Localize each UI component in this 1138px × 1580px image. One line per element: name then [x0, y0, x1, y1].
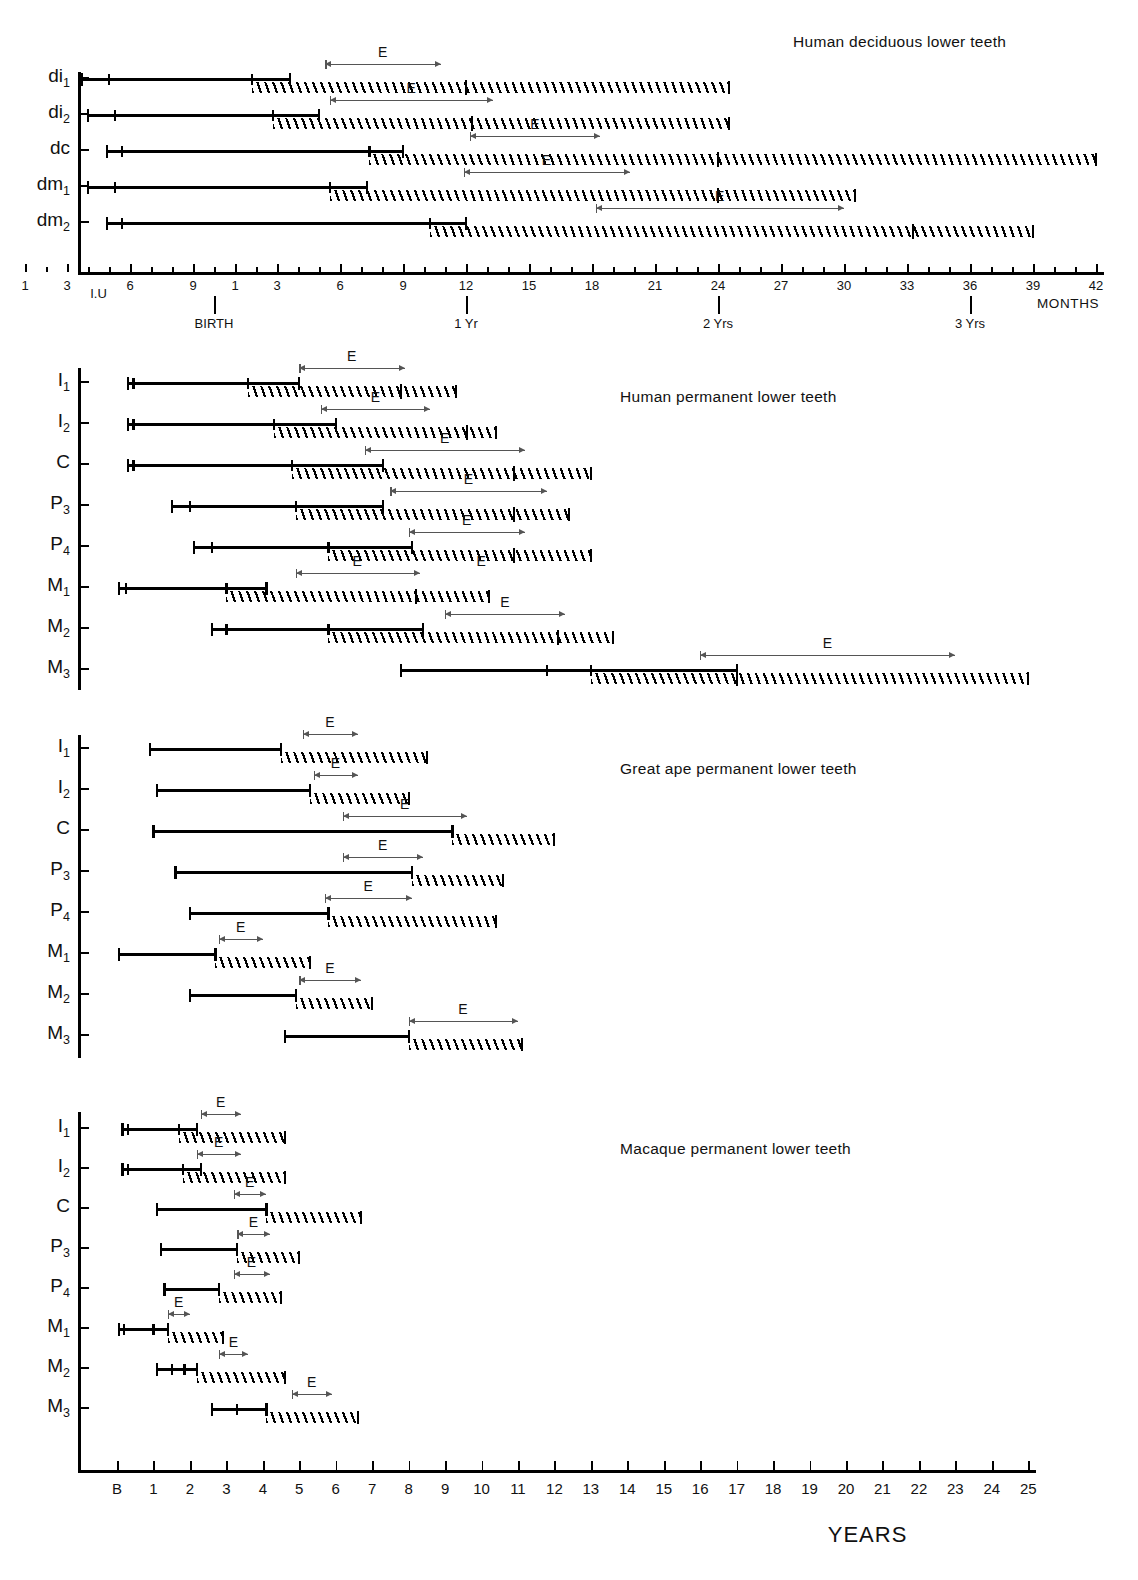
emergence-arrow-right-human-deciduous-1 — [487, 97, 493, 103]
row-label-C: C — [10, 451, 70, 473]
formation-cap-human-permanent-0-0 — [127, 377, 129, 390]
row-tick-human-permanent-0 — [80, 381, 89, 383]
hatch-end-human-permanent-7 — [1027, 672, 1029, 685]
hatch-band-great-ape-permanent-0 — [281, 752, 427, 763]
emergence-arrow-right-human-permanent-6 — [559, 611, 565, 617]
x-tick-years-9 — [445, 1461, 447, 1470]
formation-cap-human-deciduous-0-0 — [81, 73, 83, 86]
panel-title-human-deciduous: Human deciduous lower teeth — [793, 33, 1006, 51]
emergence-label-human-permanent-2: E — [440, 430, 449, 446]
x-tick-label-years-20: 20 — [830, 1480, 862, 1497]
formation-cap-human-permanent-7-0 — [400, 664, 402, 677]
formation-bar-great-ape-permanent-3 — [175, 871, 412, 874]
x-tick-label-years-2: 2 — [174, 1480, 206, 1497]
formation-tick-macaque-permanent-1-0 — [127, 1164, 129, 1175]
x-axis-unit-years: YEARS — [828, 1522, 908, 1548]
formation-cap-macaque-permanent-5-0 — [118, 1323, 120, 1336]
row-tick-human-deciduous-2 — [80, 149, 89, 151]
hatch-mark-human-permanent-2-0 — [513, 466, 515, 481]
hatch-band-human-permanent-4 — [328, 550, 590, 561]
x-minor-tick-months-17 — [571, 267, 573, 272]
figure-canvas: Human deciduous lower teethdi1Edi2EdcEdm… — [0, 0, 1138, 1580]
x-minor-tick-months-0 — [214, 267, 216, 272]
emergence-label-great-ape-permanent-0: E — [325, 714, 334, 730]
emergence-arrow-right-great-ape-permanent-2 — [461, 813, 467, 819]
axis-marker-1-yr: 1 Yr — [442, 316, 490, 331]
formation-tick-macaque-permanent-5-0 — [123, 1324, 125, 1335]
emergence-label-human-permanent-5: E — [353, 553, 362, 569]
emergence-cap-left-human-permanent-5 — [296, 569, 297, 578]
formation-bar-human-deciduous-3 — [88, 186, 367, 189]
emergence-cap-left-human-permanent-4 — [409, 528, 410, 537]
hatch-band-human-permanent-7 — [591, 673, 1028, 684]
formation-cap-macaque-permanent-0-0 — [121, 1123, 123, 1136]
emergence-cap-left-great-ape-permanent-2 — [343, 812, 344, 821]
hatch-band-human-permanent-3 — [296, 509, 569, 520]
row-tick-great-ape-permanent-4 — [80, 911, 89, 913]
emergence-cap-left-human-permanent-6 — [445, 610, 446, 619]
hatch-band-great-ape-permanent-5 — [215, 957, 310, 968]
hatch-mark-human-deciduous-4-0 — [912, 224, 914, 239]
hatch-mark-human-deciduous-0-0 — [465, 80, 467, 95]
emergence-arrow-right-macaque-permanent-6 — [242, 1351, 248, 1357]
x-minor-tick-months-16 — [550, 267, 552, 272]
formation-cap-macaque-permanent-3-0 — [160, 1243, 162, 1256]
x-minor-tick-months-33 — [907, 267, 909, 272]
formation-cap-macaque-permanent-1-0 — [121, 1163, 123, 1176]
hatch-end-human-permanent-0 — [455, 385, 457, 398]
x-tick-label-years-0: B — [101, 1480, 133, 1497]
hatch-mark-human-permanent-5-0 — [415, 589, 417, 604]
hatch-band-human-permanent-0 — [248, 386, 456, 397]
hatch-mark-human-permanent-1-0 — [466, 425, 468, 440]
x-minor-tick-months-3 — [277, 267, 279, 272]
x-tick-label-years-7: 7 — [356, 1480, 388, 1497]
axis-marker-line-3 — [718, 296, 720, 314]
formation-cap-human-permanent-3-0 — [171, 500, 173, 513]
emergence-cap-left-human-deciduous-2 — [470, 132, 471, 141]
row-label-M1: M1 — [10, 1315, 70, 1340]
row-tick-macaque-permanent-0 — [80, 1127, 89, 1129]
hatch-end-human-deciduous-1 — [728, 117, 730, 130]
x-tick-years-1 — [153, 1461, 155, 1470]
hatch-end-great-ape-permanent-6 — [371, 997, 373, 1010]
y-axis-human-deciduous — [78, 72, 81, 272]
formation-tick-human-permanent-5-0 — [125, 583, 127, 594]
emergence-arrow-right-macaque-permanent-0 — [235, 1111, 241, 1117]
x-minor-tick-months-14 — [508, 267, 510, 272]
x-minor-tick-months--7 — [67, 267, 69, 272]
axis-marker-line-1 — [214, 296, 216, 314]
row-tick-human-permanent-7 — [80, 668, 89, 670]
formation-cap-human-deciduous-4-0 — [106, 217, 108, 230]
x-minor-tick-months-10 — [424, 267, 426, 272]
x-minor-tick-months-19 — [613, 267, 615, 272]
x-minor-tick-months-28 — [802, 267, 804, 272]
x-tick-label-months-12: 24 — [704, 278, 732, 293]
hatch-end-macaque-permanent-0 — [284, 1131, 286, 1144]
x-tick-label-months-0: 1 — [11, 278, 39, 293]
emergence-cap-left-great-ape-permanent-6 — [299, 976, 300, 985]
x-minor-tick-months-34 — [928, 267, 930, 272]
x-minor-tick-months-35 — [949, 267, 951, 272]
hatch-band-human-deciduous-4 — [430, 226, 1033, 237]
row-tick-great-ape-permanent-2 — [80, 829, 89, 831]
x-minor-tick-months-30 — [844, 267, 846, 272]
x-tick-years-13 — [591, 1461, 593, 1470]
formation-bar-human-deciduous-2 — [107, 150, 403, 153]
formation-bar-human-permanent-5 — [119, 587, 267, 590]
hatch-band-macaque-permanent-0 — [179, 1132, 285, 1143]
row-tick-human-deciduous-4 — [80, 221, 89, 223]
x-tick-label-months-18: 42 — [1082, 278, 1110, 293]
x-tick-years-20 — [846, 1461, 848, 1470]
emergence-label-human-permanent-1: E — [371, 389, 380, 405]
formation-bar-great-ape-permanent-1 — [157, 789, 310, 792]
row-tick-human-permanent-4 — [80, 545, 89, 547]
x-tick-label-years-16: 16 — [684, 1480, 716, 1497]
emergence-label-human-deciduous-1: E — [406, 80, 415, 96]
formation-bar-human-permanent-6 — [212, 628, 423, 631]
x-minor-tick-months--1 — [193, 267, 195, 272]
x-minor-tick-months-32 — [886, 267, 888, 272]
formation-cap-great-ape-permanent-3-0 — [174, 866, 176, 879]
hatch-band-human-deciduous-2 — [369, 154, 1096, 165]
x-minor-tick-months-5 — [319, 267, 321, 272]
hatch-mark-human-deciduous-1-0 — [471, 116, 473, 131]
